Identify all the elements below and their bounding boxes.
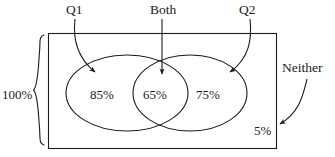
region-value-neither: 5%: [254, 124, 271, 137]
venn-diagram-figure: Q1 Both Q2 Neither 100% 85% 65% 75% 5%: [0, 0, 335, 157]
q2-callout-arrow: [230, 19, 251, 72]
venn-diagram-canvas: [0, 0, 335, 157]
set-ellipse-q1: [66, 55, 188, 131]
neither-callout-arrow: [280, 79, 307, 124]
callout-label-q1: Q1: [66, 3, 83, 17]
universe-total-label: 100%: [2, 88, 32, 101]
callout-label-both: Both: [150, 3, 176, 17]
left-curly-brace: [34, 35, 45, 145]
region-value-only-q1: 85%: [90, 88, 114, 101]
region-value-only-q2: 75%: [196, 88, 220, 101]
region-value-both: 65%: [143, 88, 167, 101]
q1-callout-arrow: [74, 19, 95, 72]
callout-label-q2: Q2: [239, 3, 256, 17]
callout-label-neither: Neither: [282, 61, 322, 75]
